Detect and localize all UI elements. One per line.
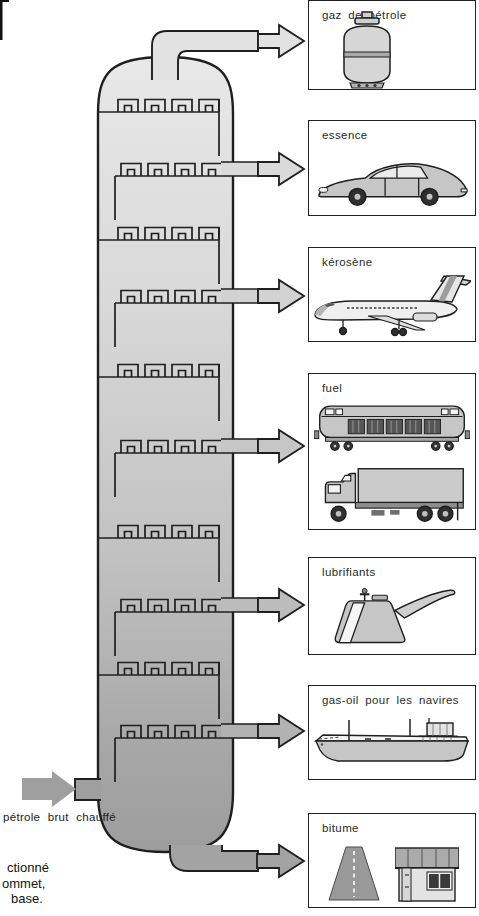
oil-can-icon — [323, 584, 465, 650]
road-icon — [327, 844, 381, 902]
cargo-truck-icon — [317, 464, 467, 526]
drawoff-pipe — [221, 162, 258, 176]
flow-arrow-kerosene — [258, 280, 304, 312]
drawoff-pipe — [221, 289, 258, 303]
feed-inlet-pipe — [75, 779, 101, 800]
airplane-icon — [313, 272, 471, 338]
product-box-essence: essence — [308, 120, 476, 216]
caption-line-1: ctionné — [7, 860, 49, 876]
product-label: fuel — [322, 382, 342, 394]
product-box-kerosene: kérosène — [308, 247, 476, 342]
car-icon — [314, 151, 472, 213]
flow-arrow-lubricants — [258, 589, 304, 621]
flow-arrow-gasoil — [258, 715, 304, 747]
product-box-fuel: fuel — [308, 373, 476, 530]
product-label: bitume — [322, 822, 359, 834]
bottom-outlet-pipe — [170, 845, 258, 871]
distillation-diagram: gaz de pétrole essence — [0, 0, 479, 916]
caption-line-3: base. — [11, 891, 49, 907]
product-box-lubricants: lubrifiants — [308, 557, 476, 655]
drawoff-pipe — [221, 439, 258, 453]
flow-arrow-essence — [258, 153, 304, 185]
gas-cylinder-icon — [337, 11, 397, 89]
product-label: essence — [322, 129, 368, 141]
flow-arrow-feed — [22, 771, 76, 807]
scan-edge-artifact — [0, 0, 9, 2]
flow-arrow-gas — [258, 25, 304, 57]
product-label: kérosène — [322, 256, 373, 268]
product-box-gas: gaz de pétrole — [308, 0, 476, 90]
scan-edge-artifact — [0, 2, 3, 40]
flow-arrow-bitumen — [257, 845, 304, 877]
diesel-locomotive-icon — [314, 400, 470, 456]
product-label: lubrifiants — [322, 566, 376, 578]
house-icon — [395, 846, 459, 902]
product-label: gas-oil pour les navires — [322, 694, 459, 706]
product-box-gasoil: gas-oil pour les navires — [308, 685, 476, 780]
feed-label: pétrole brut chauffé — [3, 811, 116, 823]
product-box-bitumen: bitume — [308, 813, 476, 908]
drawoff-pipe — [221, 724, 258, 738]
caption-line-2: ommet, — [2, 876, 49, 892]
flow-arrow-fuel — [258, 430, 304, 462]
cargo-ship-icon — [313, 716, 471, 770]
drawoff-pipe — [221, 598, 258, 612]
caption-fragment: ctionné ommet, base. — [0, 860, 49, 907]
